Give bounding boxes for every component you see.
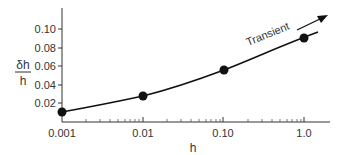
chart: 0.02 0.04 0.06 0.08 0.10 δh h 0.001 0.01… — [0, 0, 337, 155]
transient-annotation: Transient — [244, 20, 291, 48]
x-tick-label: 0.10 — [212, 127, 233, 139]
y-tick-label: 0.04 — [35, 79, 56, 91]
data-point — [58, 108, 67, 117]
data-point — [220, 66, 229, 75]
x-tick-label: 0.01 — [132, 127, 153, 139]
y-axis-label-numerator: δh — [16, 58, 29, 72]
data-point — [139, 92, 148, 101]
y-ticks — [58, 29, 62, 103]
x-axis-label: h — [190, 141, 197, 155]
y-tick-label: 0.06 — [35, 60, 56, 72]
data-point — [300, 34, 309, 43]
x-tick-label: 0.001 — [48, 127, 76, 139]
y-axis-label-denominator: h — [20, 74, 27, 88]
y-tick-label: 0.10 — [35, 23, 56, 35]
y-tick-label: 0.02 — [35, 97, 56, 109]
arrow-icon — [297, 15, 328, 30]
x-tick-label: 1.0 — [296, 127, 311, 139]
y-tick-label: 0.08 — [35, 42, 56, 54]
data-curve — [62, 32, 318, 112]
